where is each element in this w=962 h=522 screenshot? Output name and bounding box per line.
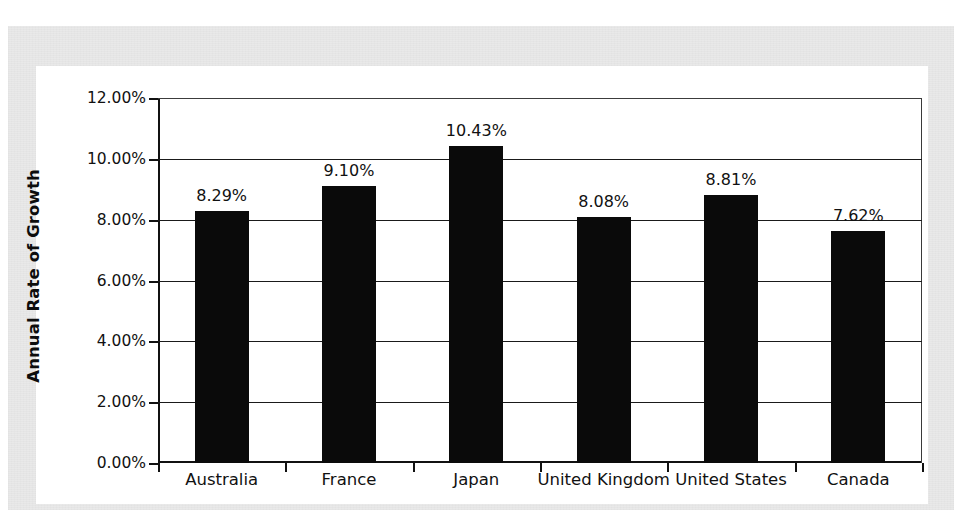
- gridline: [158, 220, 922, 221]
- bar-value-label: 7.62%: [833, 206, 884, 225]
- gridline: [158, 98, 922, 99]
- plot-area: 0.00%2.00%4.00%6.00%8.00%10.00%12.00% 8.…: [158, 98, 922, 463]
- y-axis-tick-label: 6.00%: [97, 272, 146, 290]
- gridline: [158, 341, 922, 342]
- x-axis-tick-mark: [158, 463, 160, 472]
- y-axis-tick-mark: [149, 402, 158, 404]
- x-axis-tick-mark: [795, 463, 797, 472]
- x-axis-category-label: France: [322, 470, 377, 489]
- bar-value-label: 8.08%: [578, 192, 629, 211]
- x-axis-category-label: Canada: [827, 470, 890, 489]
- bar-japan[interactable]: [449, 146, 503, 463]
- gridline: [158, 402, 922, 403]
- gridline: [158, 281, 922, 282]
- bar-value-label: 8.81%: [706, 170, 757, 189]
- x-axis-tick-mark: [285, 463, 287, 472]
- bar-united-kingdom[interactable]: [577, 217, 631, 463]
- x-axis-category-label: Australia: [185, 470, 258, 489]
- y-axis-tick-label: 2.00%: [97, 393, 146, 411]
- bar-value-label: 8.29%: [196, 186, 247, 205]
- bar-france[interactable]: [322, 186, 376, 463]
- chart-outer-frame: Annual Rate of Growth 0.00%2.00%4.00%6.0…: [8, 26, 954, 510]
- y-axis-tick-label: 8.00%: [97, 211, 146, 229]
- bar-canada[interactable]: [831, 231, 885, 463]
- x-axis-category-label: United Kingdom: [537, 470, 669, 489]
- y-axis-tick-label: 10.00%: [87, 150, 146, 168]
- bar-value-label: 9.10%: [324, 161, 375, 180]
- y-axis-tick-label: 0.00%: [97, 454, 146, 472]
- y-axis-tick-mark: [149, 463, 158, 465]
- x-axis-tick-mark: [413, 463, 415, 472]
- y-axis-tick-mark: [149, 341, 158, 343]
- figure-root: Annual Rate of Growth 0.00%2.00%4.00%6.0…: [0, 0, 962, 522]
- bar-value-label: 10.43%: [446, 121, 507, 140]
- y-axis-tick-mark: [149, 159, 158, 161]
- bar-australia[interactable]: [195, 211, 249, 463]
- x-axis-tick-mark: [922, 463, 924, 472]
- y-axis-tick-mark: [149, 220, 158, 222]
- x-axis-category-label: United States: [675, 470, 787, 489]
- chart-panel: Annual Rate of Growth 0.00%2.00%4.00%6.0…: [36, 66, 928, 504]
- y-axis-tick-mark: [149, 98, 158, 100]
- gridline: [158, 159, 922, 160]
- y-axis-tick-label: 4.00%: [97, 332, 146, 350]
- y-axis-title: Annual Rate of Growth: [24, 156, 48, 396]
- y-axis-tick-label: 12.00%: [87, 89, 146, 107]
- bar-united-states[interactable]: [704, 195, 758, 463]
- x-axis-category-label: Japan: [453, 470, 499, 489]
- y-axis-tick-mark: [149, 281, 158, 283]
